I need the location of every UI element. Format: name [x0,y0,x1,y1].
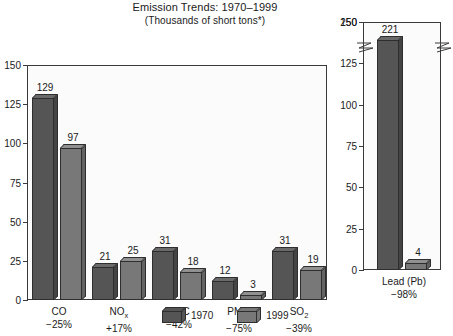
bar-1970-PM [212,281,234,300]
bar-front-face [152,251,174,300]
chart-title: Emission Trends: 1970–1999 [60,1,350,14]
y-axis-label: 125 [0,99,21,110]
y-axis-label: 0 [331,265,357,276]
y-axis-tick [23,222,28,223]
bar-front-face [92,267,114,300]
y-axis-tick [359,229,364,230]
chart-title-block: Emission Trends: 1970–1999 (Thousands of… [60,1,350,27]
y-axis-tick [359,63,364,64]
swatch-front-face [162,311,182,323]
bar-side-face [399,36,403,270]
bar-value-label: 18 [187,256,198,267]
bar-1970-VOC [152,251,174,300]
y-axis-label: 25 [331,223,357,234]
y-axis-tick [359,22,364,23]
bar-1970-CO [32,98,54,300]
category-percent-change: −98% [382,288,426,301]
swatch-front-face [237,311,257,323]
bar-front-face [60,148,82,300]
y-axis-label: 25 [0,255,21,266]
category-subscript: 2 [304,311,308,320]
bar-value-label: 221 [382,24,399,35]
bar-front-face [212,281,234,300]
y-axis-tick [359,187,364,188]
legend-label: 1970 [191,310,213,321]
chart-legend: 19701999 [162,308,305,323]
y-axis-tick [23,183,28,184]
y-axis-label-break-top: 250 [331,17,357,28]
y-axis-label: 100 [331,99,357,110]
y-axis-label: 0 [0,295,21,306]
bar-side-face [174,247,178,300]
bar-side-face [54,94,58,300]
bar-value-label: 31 [279,235,290,246]
bar-1999-VOC [180,272,202,300]
y-axis-label: 50 [0,216,21,227]
category-percent-change: −39% [286,322,312,335]
lead-chart-panel: 0255075100125150250 2214 Lead (Pb)−98% [330,0,443,336]
bar-side-face [322,266,326,300]
y-axis-label: 100 [0,138,21,149]
bar-value-label: 3 [250,279,256,290]
category-label: Lead (Pb)−98% [382,275,426,301]
category-name: Lead (Pb) [382,276,426,287]
bar-value-label: 12 [219,265,230,276]
bar-value-label: 25 [127,245,138,256]
category-percent-change: −25% [46,318,72,331]
y-axis-tick [23,143,28,144]
bar-front-face [300,270,322,300]
bar-value-label: 4 [415,247,421,258]
axis-break-left-icon [355,40,375,54]
y-axis-tick [359,105,364,106]
bar-1970-LeadPb [377,40,399,270]
bar-front-face [272,251,294,300]
bar-1999-NO [120,261,142,300]
category-label: CO−25% [46,305,72,331]
y-axis-tick [359,270,364,271]
y-axis-label: 50 [331,182,357,193]
bar-1999-SO [300,270,322,300]
bar-side-face [142,257,146,300]
category-subscript: x [125,311,129,320]
bar-1999-LeadPb [405,263,427,270]
bar-front-face [180,272,202,300]
category-name: NOx [110,306,129,317]
bar-value-label: 31 [159,235,170,246]
axis-break-right-icon [433,40,453,54]
y-axis-label: 75 [331,141,357,152]
category-percent-change: +17% [106,322,132,335]
bar-front-face [120,261,142,300]
y-axis-tick [23,300,28,301]
bar-front-face [405,263,427,270]
legend-swatch [162,311,182,323]
bar-front-face [32,98,54,300]
legend-label: 1999 [266,310,288,321]
bar-front-face [377,40,399,270]
y-axis-label: 75 [0,177,21,188]
bar-1970-NO [92,267,114,300]
legend-entry: 1970 [162,308,213,323]
bar-side-face [294,247,298,300]
y-axis-tick [23,65,28,66]
bar-1999-PM [240,295,262,300]
bar-1999-CO [60,148,82,300]
bar-value-label: 97 [67,132,78,143]
legend-entry: 1999 [237,308,288,323]
category-label: NOx+17% [106,305,132,335]
bar-side-face [82,144,86,300]
bar-side-face [114,263,118,300]
bar-value-label: 19 [307,254,318,265]
y-axis-label: 125 [331,58,357,69]
category-name: CO [51,306,66,317]
legend-swatch [237,311,257,323]
bar-value-label: 129 [37,82,54,93]
bar-value-label: 21 [99,251,110,262]
category-percent-change: −75% [226,322,252,335]
y-axis-tick [23,261,28,262]
main-chart-panel: 0255075100125150 12997212531181233119 CO… [0,30,330,336]
bar-side-face [202,268,206,300]
y-axis-label: 150 [0,60,21,71]
bar-1970-SO [272,251,294,300]
y-axis-tick [359,146,364,147]
